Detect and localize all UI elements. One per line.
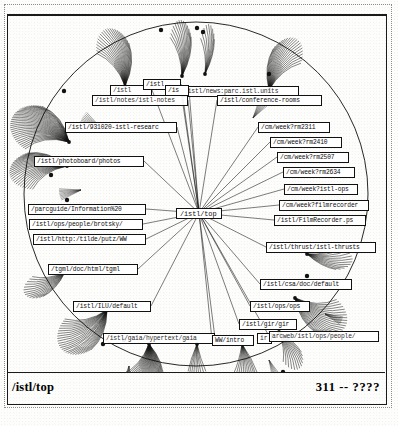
node-n25[interactable]: arcweb/istl/ops/people/: [269, 331, 379, 342]
node-n28[interactable]: /istl/csa/doc/default: [260, 279, 352, 290]
node-n10[interactable]: /cm/week?rm2410: [270, 137, 342, 148]
node-n11[interactable]: /cm/week?rm2507: [277, 152, 349, 163]
node-n05[interactable]: /istl/notes/istl-notes: [92, 95, 188, 106]
status-bar: /istl/top 311 -- ????: [7, 372, 385, 402]
center-node-istl-top[interactable]: /istl/top: [176, 208, 222, 219]
node-n22[interactable]: /istl/gaia/hypertext/gaia: [103, 333, 215, 344]
node-n18[interactable]: /istl/ops/people/brotsky/: [29, 219, 143, 230]
node-n03[interactable]: /is: [165, 85, 189, 96]
node-n06[interactable]: /istl/conference-rooms: [217, 95, 322, 106]
node-n21[interactable]: /istl/ILU/default: [73, 301, 151, 312]
node-n07[interactable]: /istl/931020-istl-researc: [65, 122, 177, 133]
node-n13[interactable]: /cm/week?istl-ops: [284, 184, 358, 195]
node-n15[interactable]: /istl/FilmRecorder.ps: [274, 215, 366, 226]
node-n20[interactable]: /tgml/doc/html/tgml: [48, 264, 138, 275]
node-n17[interactable]: /parcguide/Information%20: [28, 204, 146, 215]
node-n27[interactable]: /istl/ops/ops: [250, 301, 310, 312]
node-n14[interactable]: /cm/week?filmrecorder: [279, 200, 369, 211]
hyperbolic-browser-window: /istl/istl/is/istl/news:parc.istl.units/…: [0, 0, 398, 426]
node-n23[interactable]: WW/intro: [212, 335, 254, 346]
node-n12[interactable]: /cm/week?rm2634: [283, 167, 355, 178]
node-n16[interactable]: /istl/thrust/istl-thrusts: [266, 242, 376, 253]
node-n08[interactable]: /istl/photoboard/photos: [34, 156, 144, 167]
status-current-path: /istl/top: [12, 380, 54, 395]
node-n26[interactable]: /istl/gir/gir: [239, 319, 297, 330]
node-n09[interactable]: /cm/week?rm2311: [258, 122, 330, 133]
node-n19[interactable]: /istl/http:/tilde/putz/WW: [33, 234, 146, 245]
status-node-count: 311 -- ????: [316, 380, 380, 395]
